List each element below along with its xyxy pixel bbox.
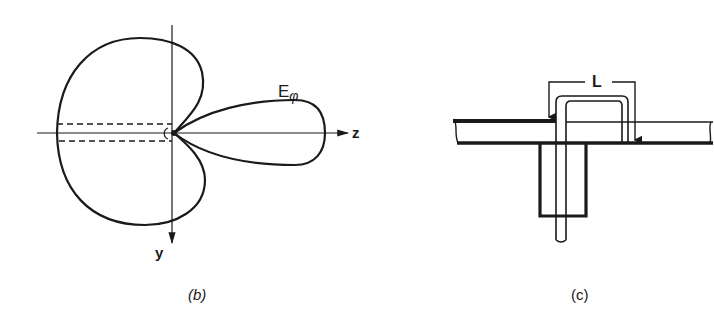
origin-dot [171,130,177,136]
back-lobe [57,38,205,225]
dimension-line-left [549,82,585,117]
coax-outer-conductor [540,143,586,216]
loop-probe-figure: L (c) [453,73,713,303]
z-axis-label: z [352,124,360,141]
caption-b: (b) [188,286,206,303]
figure-canvas: Eφ z y (b) L (c) [0,0,714,326]
y-axis-label: y [155,244,164,261]
dimension-label: L [592,73,602,90]
radiation-pattern-figure: Eφ z y (b) [37,25,360,303]
wall-right-break [710,122,711,143]
probe-tip [556,240,566,242]
caption-c: (c) [571,286,589,303]
pattern-label: Eφ [278,82,298,104]
dimension-line-right [612,82,635,140]
